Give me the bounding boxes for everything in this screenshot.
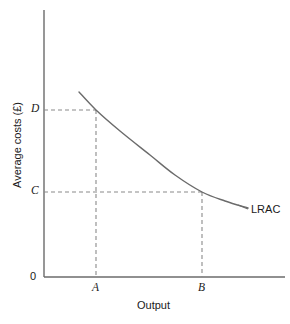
- y-axis-title: Average costs (£): [0, 0, 34, 290]
- lrac-chart-figure: Average costs (£) 0 D C A B LRAC Output: [0, 0, 290, 324]
- lrac-curve-label: LRAC: [251, 204, 280, 215]
- x-tick-label-b: B: [198, 282, 205, 294]
- chart-plot-area: [0, 0, 290, 324]
- lrac-curve: [79, 92, 248, 208]
- y-tick-label-c: C: [31, 185, 39, 197]
- y-tick-label-d: D: [31, 103, 39, 115]
- x-axis-title: Output: [137, 300, 170, 311]
- x-tick-label-a: A: [92, 282, 99, 294]
- y-axis-title-text: Average costs (£): [11, 102, 23, 188]
- origin-label: 0: [30, 271, 36, 282]
